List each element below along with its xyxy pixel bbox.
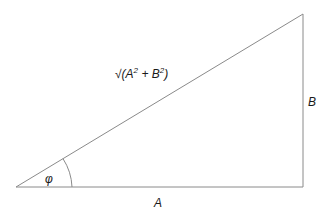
angle-arc	[63, 159, 72, 187]
side-a-label: A	[153, 196, 162, 210]
triangle-diagram: √(A2 + B2) B A φ	[0, 0, 324, 218]
side-b-label: B	[308, 95, 316, 109]
hypotenuse-label: √(A2 + B2)	[115, 66, 168, 81]
hypotenuse-line	[16, 14, 303, 187]
angle-phi-label: φ	[45, 172, 53, 186]
